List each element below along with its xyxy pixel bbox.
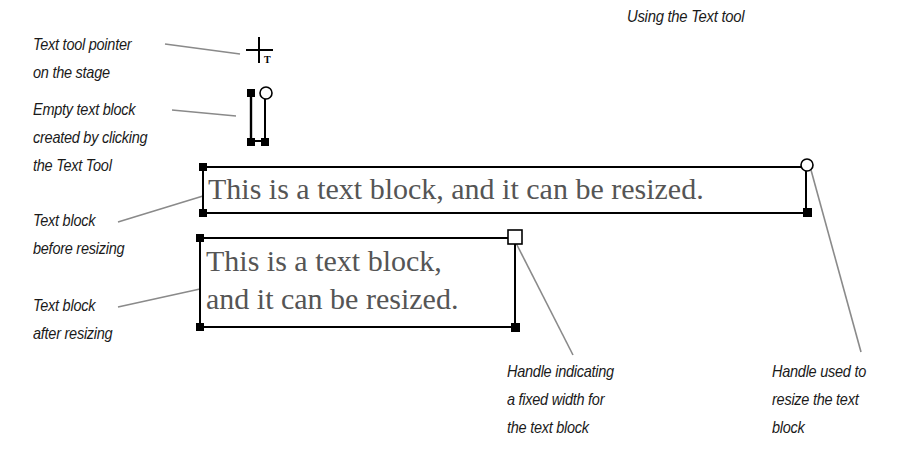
diagram-graphics: T [0,0,914,468]
leader-line-fixed-handle [516,243,573,355]
square-handle-icon [199,209,207,217]
text-tool-crosshair-icon: T [246,37,273,65]
text-block-after-frame [196,230,522,332]
square-handle-icon [196,323,204,331]
square-handle-icon [199,163,207,171]
square-handle-icon [196,234,204,242]
leader-line-after [118,289,200,307]
square-handle-icon [261,138,269,146]
empty-text-block[interactable] [247,87,272,146]
square-handle-icon [247,89,255,97]
leader-lines [118,44,861,355]
leader-line-empty-block [172,110,236,116]
svg-text:T: T [264,54,271,65]
square-handle-icon [247,138,255,146]
leader-line-before [118,196,203,222]
resize-circle-handle-icon[interactable] [801,159,813,171]
leader-line-resize-handle [811,170,861,352]
square-handle-icon [803,208,812,217]
text-block-before-frame [199,159,813,217]
square-handle-icon [511,323,520,332]
leader-line-pointer [165,44,240,54]
fixed-width-square-handle-icon[interactable] [508,230,522,244]
circle-handle-icon[interactable] [260,87,272,99]
